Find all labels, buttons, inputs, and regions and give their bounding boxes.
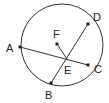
point-a bbox=[19, 46, 22, 49]
circle bbox=[21, 4, 103, 86]
label-d: D bbox=[93, 11, 101, 23]
point-f bbox=[56, 43, 59, 46]
point-b bbox=[50, 82, 53, 85]
point-c bbox=[87, 64, 90, 67]
label-b: B bbox=[45, 89, 52, 101]
point-d bbox=[87, 23, 90, 26]
label-c: C bbox=[94, 63, 102, 75]
label-f: F bbox=[53, 28, 60, 40]
label-e: E bbox=[64, 64, 71, 76]
segment-ac bbox=[20, 47, 88, 65]
circle-chords-diagram: A B C D E F bbox=[0, 0, 109, 103]
label-a: A bbox=[6, 42, 14, 54]
